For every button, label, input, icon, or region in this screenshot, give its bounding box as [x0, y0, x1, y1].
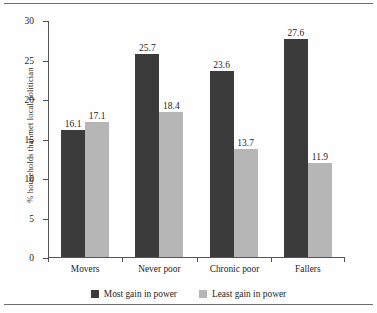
- bar-value-label: 11.9: [312, 152, 328, 162]
- y-axis-tick: 25: [43, 61, 48, 62]
- bar: 27.6: [284, 39, 308, 257]
- plot-area: 05101520253016.117.1Movers25.718.4Never …: [48, 21, 345, 258]
- bar-group: 23.613.7Chronic poor: [210, 71, 258, 257]
- y-axis-tick: 15: [43, 140, 48, 141]
- x-axis-tick: [48, 258, 49, 262]
- bar-value-label: 18.4: [163, 101, 180, 111]
- bar: 23.6: [210, 71, 234, 257]
- legend-item-most-gain: Most gain in power: [91, 289, 177, 299]
- y-axis-tick: 10: [43, 179, 48, 180]
- x-axis-category-label: Fallers: [284, 264, 332, 274]
- legend-label-least-gain: Least gain in power: [212, 289, 286, 299]
- bar-value-label: 25.7: [139, 43, 156, 53]
- y-axis-tick-label: 25: [25, 56, 35, 66]
- y-axis-tick-label: 20: [25, 95, 35, 105]
- bar-value-label: 16.1: [65, 119, 82, 129]
- bar: 16.1: [61, 130, 85, 257]
- top-divider: [4, 3, 373, 4]
- y-axis-tick: 5: [43, 219, 48, 220]
- y-axis-line: [48, 21, 49, 258]
- bar: 17.1: [85, 122, 109, 257]
- x-axis-tick: [197, 258, 198, 262]
- bar: 25.7: [135, 54, 159, 257]
- y-axis-tick: 30: [43, 21, 48, 22]
- y-axis-tick-label: 5: [29, 214, 34, 224]
- y-axis-tick-label: 0: [29, 253, 34, 263]
- y-axis-tick-label: 10: [25, 174, 35, 184]
- bar-group: 27.611.9Fallers: [284, 39, 332, 257]
- x-axis-category-label: Never poor: [135, 264, 183, 274]
- chart-legend: Most gain in power Least gain in power: [0, 289, 377, 299]
- legend-item-least-gain: Least gain in power: [199, 289, 286, 299]
- legend-label-most-gain: Most gain in power: [104, 289, 177, 299]
- x-axis-tick: [271, 258, 272, 262]
- bar: 11.9: [308, 163, 332, 257]
- bar-group: 25.718.4Never poor: [135, 54, 183, 257]
- bar-group: 16.117.1Movers: [61, 122, 109, 257]
- bar-value-label: 23.6: [213, 60, 230, 70]
- legend-swatch-icon-most-gain: [91, 290, 99, 298]
- bar: 18.4: [159, 112, 183, 257]
- legend-swatch-icon-least-gain: [199, 290, 207, 298]
- x-axis-category-label: Movers: [61, 264, 109, 274]
- chart-figure: % households that met local politician 0…: [0, 0, 377, 313]
- bar-value-label: 27.6: [288, 28, 305, 38]
- x-axis-tick: [344, 258, 345, 262]
- bar-value-label: 13.7: [237, 138, 254, 148]
- bar: 13.7: [234, 149, 258, 257]
- y-axis-tick: 20: [43, 100, 48, 101]
- x-axis-category-label: Chronic poor: [210, 264, 258, 274]
- y-axis-tick-label: 15: [25, 135, 35, 145]
- bar-value-label: 17.1: [89, 111, 106, 121]
- bottom-divider: [4, 304, 373, 305]
- y-axis-tick-label: 30: [25, 16, 35, 26]
- x-axis-tick: [122, 258, 123, 262]
